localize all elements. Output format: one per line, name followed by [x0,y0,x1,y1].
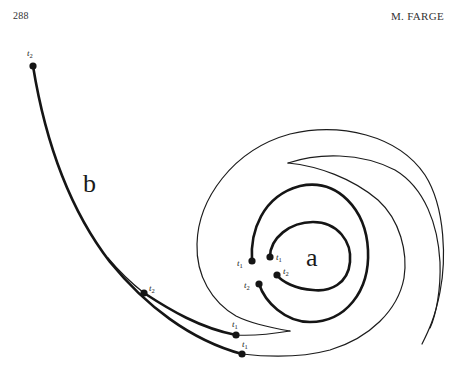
label-b-branch-t1: t1 [232,319,238,330]
point-b-long-t1 [238,350,245,357]
point-a-inner-t2 [273,271,280,278]
label-curve-b: b [83,169,96,198]
point-b-branch-t2 [140,289,147,296]
point-a-inner-t1 [266,253,273,260]
point-a-outer-t1 [248,257,255,264]
outer-spiral-line [197,130,443,344]
curve-b-branch [144,293,236,335]
point-b-branch-t1 [232,331,239,338]
point-b-long-t2 [29,62,36,69]
upper-tongue-lower-edge [242,163,405,356]
label-a-inner-t2: t2 [283,266,289,277]
label-b-long-t1: t1 [242,339,248,350]
label-a-outer-t1: t1 [237,258,243,269]
label-b-branch-t2: t2 [149,283,155,294]
upper-tongue-upper-edge [288,156,440,328]
lower-tongue-lower-edge [236,331,290,335]
label-a-outer-t2: t2 [244,280,250,291]
label-curve-a: a [306,243,318,272]
point-a-outer-t2 [255,280,262,287]
label-a-inner-t1: t1 [276,252,282,263]
b-thin-connector [108,258,144,293]
curve-b-long [33,66,242,354]
label-b-long-t2: t2 [27,48,33,59]
spiral-trajectory-figure: t2 t2 t1 t1 t1 t1 t2 t2 a b [0,0,469,368]
